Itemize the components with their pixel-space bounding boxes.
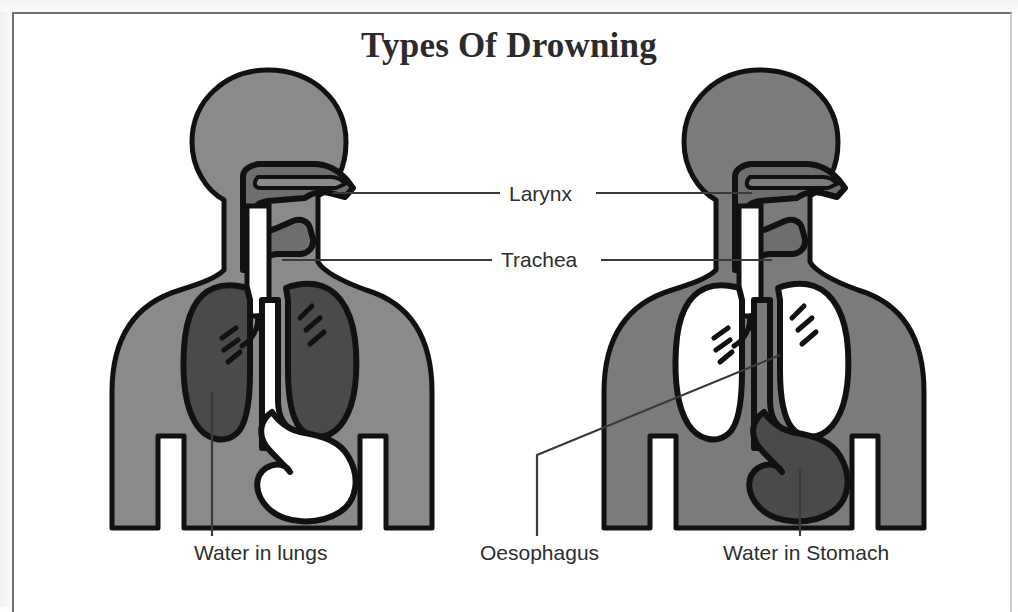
lung-left-water-filled (184, 285, 251, 439)
lung-right-empty (778, 284, 848, 437)
nasal-passage-left (255, 177, 345, 188)
label-water-in-stomach: Water in Stomach (723, 541, 889, 565)
label-trachea: Trachea (501, 248, 577, 272)
label-oesophagus: Oesophagus (480, 541, 599, 565)
label-larynx: Larynx (509, 182, 572, 206)
label-water-in-lungs: Water in lungs (194, 541, 327, 565)
lung-right-water-filled (286, 284, 356, 437)
lung-left-empty (676, 285, 743, 439)
figure-right-water-in-stomach (604, 70, 924, 536)
figure-left-water-in-lungs (112, 70, 432, 536)
nasal-passage-right (747, 177, 837, 188)
